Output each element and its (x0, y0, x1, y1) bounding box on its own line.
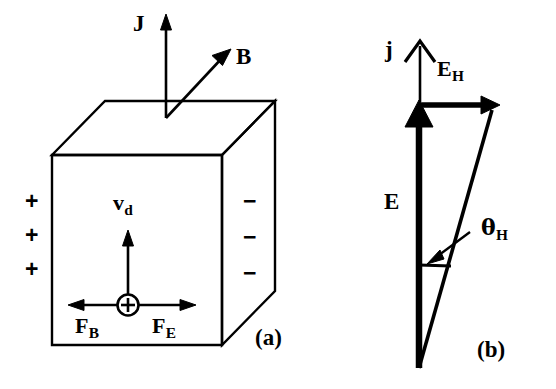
label-FE-sub: E (166, 324, 176, 341)
charge-minus-1: − (243, 190, 256, 213)
label-EH-base: E (437, 56, 452, 81)
label-EH: EH (437, 58, 464, 80)
label-theta-base: θ (481, 214, 496, 240)
label-vd-sub: d (124, 201, 133, 218)
label-FE-base: F (152, 313, 165, 338)
positive-charge-carrier (118, 295, 139, 316)
hall-field-arrow-EH (419, 96, 500, 114)
label-FB: FB (75, 315, 99, 337)
label-theta-H: θH (481, 216, 508, 238)
label-EH-sub: H (452, 67, 464, 84)
charge-plus-2: + (25, 224, 38, 247)
panel-label-a: (a) (255, 325, 282, 351)
slab-right-face (222, 101, 275, 345)
current-density-arrow-J (161, 14, 172, 118)
charge-plus-1: + (25, 190, 38, 213)
label-vd: vd (113, 192, 133, 214)
label-B: B (236, 45, 251, 68)
slab-outline (52, 101, 275, 345)
hall-angle-arc (419, 265, 451, 266)
charge-minus-2: − (243, 226, 256, 249)
charge-minus-3: − (243, 262, 256, 285)
hall-effect-figure: J B vd FB FE + + + − − − (a) j EH E θH (… (0, 0, 556, 389)
charge-plus-3: + (25, 258, 38, 281)
label-FB-sub: B (89, 324, 99, 341)
electric-force-arrow-FE (139, 300, 196, 311)
label-vd-base: v (113, 190, 124, 215)
current-density-arrow-j (405, 41, 435, 102)
label-FE: FE (152, 315, 176, 337)
slab-top-face (52, 101, 275, 155)
magnetic-force-arrow-FB (68, 300, 117, 311)
label-J: J (133, 12, 145, 35)
label-theta-sub: H (496, 226, 508, 243)
label-FB-base: F (75, 313, 88, 338)
magnetic-field-arrow-B (166, 49, 231, 118)
panel-label-b: (b) (477, 337, 505, 363)
label-j: j (385, 38, 393, 61)
label-E: E (384, 190, 399, 213)
